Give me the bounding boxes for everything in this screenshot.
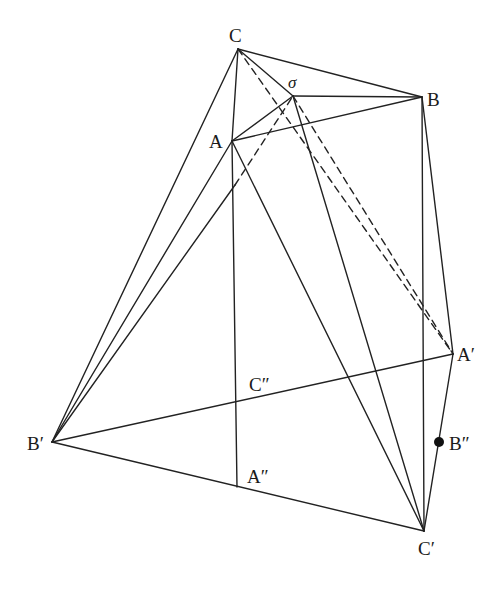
segment-C-Bp xyxy=(52,49,238,442)
label-B: B xyxy=(427,89,440,110)
point-marker-B-double-prime xyxy=(434,437,444,447)
label-C: C xyxy=(229,25,242,46)
segment-Bp-sigma-dashed xyxy=(235,96,293,185)
segment-sigma-Cp xyxy=(293,96,424,531)
label-C-double-prime: C″ xyxy=(249,374,270,395)
segment-C-A xyxy=(232,49,238,141)
segment-B-Cp xyxy=(422,97,424,531)
label-B-double-prime: B″ xyxy=(449,433,470,454)
segment-A-B xyxy=(232,97,422,141)
label-C-prime: C′ xyxy=(418,538,435,559)
diagram-lines xyxy=(52,49,453,531)
geometry-diagram: C σ B A A′ C″ B′ B″ A″ C′ xyxy=(0,0,498,595)
dashed-segment-sigma-Ap xyxy=(293,96,453,354)
segment-sigma-B xyxy=(293,96,422,97)
label-A: A xyxy=(209,131,223,152)
label-sigma: σ xyxy=(288,73,297,92)
segment-A-Bp xyxy=(52,141,232,442)
segment-Bp-sigma-solid xyxy=(52,185,235,442)
dashed-segment-C-Ap xyxy=(238,49,453,354)
segment-Bp-Cp xyxy=(52,442,424,531)
segment-A-App xyxy=(232,141,237,487)
label-A-prime: A′ xyxy=(457,344,475,365)
label-B-prime: B′ xyxy=(27,433,44,454)
label-A-double-prime: A″ xyxy=(247,466,269,487)
